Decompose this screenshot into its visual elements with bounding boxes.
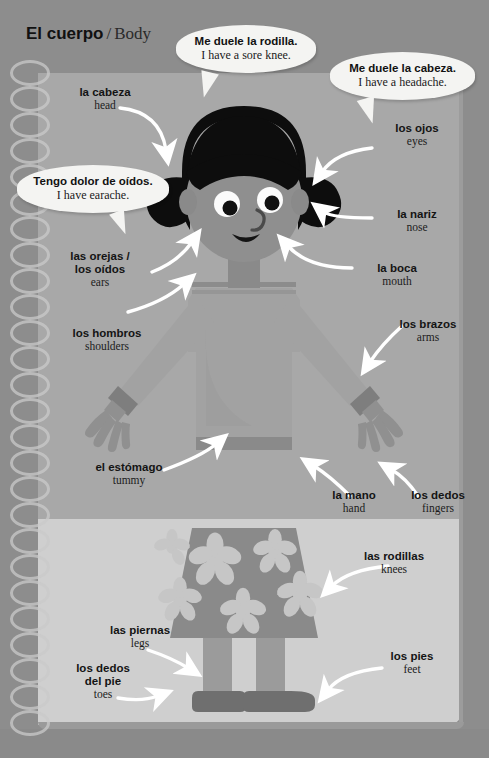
speech-bubble-earache: Tengo dolor de oídos. I have earache. <box>17 165 169 213</box>
speech-bubble-headache-english: I have a headache. <box>342 75 463 90</box>
label-hand-english: hand <box>318 502 390 515</box>
speech-bubble-headache-spanish: Me duele la cabeza. <box>342 61 463 75</box>
arrow-head <box>120 108 166 150</box>
label-toes-spanish-line2: del pie <box>58 675 148 688</box>
label-toes-spanish-line1: los dedos <box>58 662 148 675</box>
body-illustration <box>0 0 489 758</box>
label-tummy-english: tummy <box>78 474 180 487</box>
ear-left <box>179 189 197 215</box>
speech-bubble-knee-spanish: Me duele la rodilla. <box>188 34 304 48</box>
label-feet: los pies feet <box>372 650 452 676</box>
label-eyes: los ojos eyes <box>376 122 458 148</box>
label-legs-english: legs <box>92 637 188 650</box>
label-arms-spanish: los brazos <box>382 318 474 331</box>
page-title-separator: / <box>106 24 111 43</box>
label-legs: las piernas legs <box>92 624 188 650</box>
arrow-legs <box>148 650 188 668</box>
arrow-ears <box>152 242 192 272</box>
label-knees-spanish: las rodillas <box>342 550 446 563</box>
label-head: la cabeza head <box>62 86 148 112</box>
page-title-english: Body <box>114 24 151 43</box>
arrow-mouth <box>288 246 352 268</box>
shoe-right <box>243 691 315 712</box>
label-tummy: el estómago tummy <box>78 461 180 487</box>
label-nose-spanish: la nariz <box>376 208 458 221</box>
label-mouth-spanish: la boca <box>354 262 440 275</box>
label-mouth: la boca mouth <box>354 262 440 288</box>
speech-bubble-knee-english: I have a sore knee. <box>188 48 304 63</box>
label-ears-spanish-line2: los oídos <box>48 263 152 276</box>
speech-bubble-earache-spanish: Tengo dolor de oídos. <box>29 174 157 188</box>
notebook-page: El cuerpo/Body Me duele la rodilla. I ha… <box>0 0 489 758</box>
ear-right <box>291 189 309 215</box>
label-ears: las orejas / los oídos ears <box>48 250 152 289</box>
label-ears-spanish-line1: las orejas / <box>48 250 152 263</box>
label-toes: los dedos del pie toes <box>58 662 148 701</box>
label-hand-spanish: la mano <box>318 489 390 502</box>
label-toes-english: toes <box>58 688 148 701</box>
label-hand: la mano hand <box>318 489 390 515</box>
speech-bubble-knee: Me duele la rodilla. I have a sore knee. <box>176 25 316 73</box>
arrow-eyes <box>322 148 372 172</box>
label-knees-english: knees <box>342 563 446 576</box>
label-feet-english: feet <box>372 663 452 676</box>
label-feet-spanish: los pies <box>372 650 452 663</box>
label-arms: los brazos arms <box>382 318 474 344</box>
label-nose-english: nose <box>376 221 458 234</box>
label-shoulders-english: shoulders <box>52 340 162 353</box>
label-ears-english: ears <box>48 276 152 289</box>
shoe-left <box>192 691 246 712</box>
pupil-left <box>223 201 238 216</box>
label-knees: las rodillas knees <box>342 550 446 576</box>
label-head-spanish: la cabeza <box>62 86 148 99</box>
label-tummy-spanish: el estómago <box>78 461 180 474</box>
label-eyes-english: eyes <box>376 135 458 148</box>
neck <box>228 258 260 288</box>
page-title-spanish: El cuerpo <box>26 24 103 43</box>
label-shoulders: los hombros shoulders <box>52 327 162 353</box>
label-head-english: head <box>62 99 148 112</box>
label-mouth-english: mouth <box>354 275 440 288</box>
label-shoulders-spanish: los hombros <box>52 327 162 340</box>
label-fingers: los dedos fingers <box>396 489 480 515</box>
page-title: El cuerpo/Body <box>26 24 151 44</box>
speech-bubble-earache-english: I have earache. <box>29 188 157 203</box>
pupil-right <box>265 196 280 211</box>
label-eyes-spanish: los ojos <box>376 122 458 135</box>
speech-bubble-headache: Me duele la cabeza. I have a headache. <box>330 52 475 100</box>
label-fingers-spanish: los dedos <box>396 489 480 502</box>
label-arms-english: arms <box>382 331 474 344</box>
label-legs-spanish: las piernas <box>92 624 188 637</box>
label-nose: la nariz nose <box>376 208 458 234</box>
collar-stripe-2 <box>192 290 296 294</box>
label-fingers-english: fingers <box>396 502 480 515</box>
